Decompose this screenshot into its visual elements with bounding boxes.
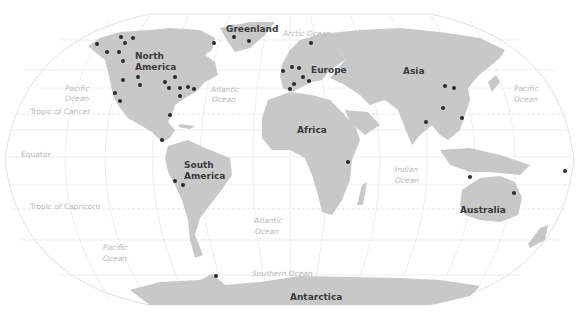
continent-label-north-america: America xyxy=(135,62,176,72)
ocean-label: Ocean xyxy=(65,94,89,103)
ocean-label: Atlantic xyxy=(253,216,284,225)
ocean-label: Indian xyxy=(395,165,418,174)
location-marker[interactable] xyxy=(512,191,516,195)
tropic-of-capricorn-label: Tropic of Capricorn xyxy=(29,202,100,211)
location-marker[interactable] xyxy=(105,50,109,54)
ocean-label: Ocean xyxy=(103,254,127,263)
location-marker[interactable] xyxy=(468,175,472,179)
location-marker[interactable] xyxy=(212,41,216,45)
location-marker[interactable] xyxy=(307,79,311,83)
location-marker[interactable] xyxy=(113,91,117,95)
location-marker[interactable] xyxy=(297,66,301,70)
continent-label-greenland: Greenland xyxy=(226,24,278,34)
location-marker[interactable] xyxy=(173,75,177,79)
location-marker[interactable] xyxy=(178,94,182,98)
location-marker[interactable] xyxy=(168,113,172,117)
location-marker[interactable] xyxy=(288,87,292,91)
location-marker[interactable] xyxy=(441,106,445,110)
ocean-label: Atlantic xyxy=(210,85,241,94)
ocean-label: Pacific xyxy=(65,84,90,93)
ocean-label: Southern Ocean xyxy=(252,269,313,278)
location-marker[interactable] xyxy=(301,75,305,79)
location-marker[interactable] xyxy=(452,86,456,90)
location-marker[interactable] xyxy=(131,36,135,40)
ocean-label: Ocean xyxy=(514,95,538,104)
location-marker[interactable] xyxy=(346,160,350,164)
location-marker[interactable] xyxy=(232,35,236,39)
location-marker[interactable] xyxy=(563,169,567,173)
ocean-label: Arctic Ocean xyxy=(282,29,331,38)
continent-label-europe: Europe xyxy=(311,65,347,75)
tropic-of-cancer-label: Tropic of Cancer xyxy=(29,107,91,116)
location-marker[interactable] xyxy=(95,42,99,46)
location-marker[interactable] xyxy=(121,78,125,82)
location-marker[interactable] xyxy=(173,179,177,183)
location-marker[interactable] xyxy=(181,183,185,187)
continent-label-south-america: America xyxy=(184,171,225,181)
continent-label-north-america: North xyxy=(135,51,164,61)
location-marker[interactable] xyxy=(290,65,294,69)
location-marker[interactable] xyxy=(214,274,218,278)
location-marker[interactable] xyxy=(160,138,164,142)
location-marker[interactable] xyxy=(163,80,167,84)
world-map[interactable]: Tropic of Cancer Equator Tropic of Capri… xyxy=(0,0,579,317)
ocean-label: Pacific xyxy=(103,243,128,252)
continent-label-asia: Asia xyxy=(403,66,424,76)
location-marker[interactable] xyxy=(136,75,140,79)
location-marker[interactable] xyxy=(309,41,313,45)
location-marker[interactable] xyxy=(118,99,122,103)
location-marker[interactable] xyxy=(117,50,121,54)
ocean-label: Ocean xyxy=(395,176,419,185)
ocean-label: Ocean xyxy=(255,227,279,236)
continent-label-australia: Australia xyxy=(460,205,506,215)
location-marker[interactable] xyxy=(138,83,142,87)
continent-label-africa: Africa xyxy=(297,125,327,135)
location-marker[interactable] xyxy=(443,84,447,88)
location-marker[interactable] xyxy=(186,85,190,89)
location-marker[interactable] xyxy=(281,69,285,73)
location-marker[interactable] xyxy=(121,59,125,63)
continent-label-south-america: South xyxy=(184,160,214,170)
ocean-label: Ocean xyxy=(212,95,236,104)
location-marker[interactable] xyxy=(119,35,123,39)
continent-label-antarctica: Antarctica xyxy=(290,292,342,302)
location-marker[interactable] xyxy=(292,82,296,86)
location-marker[interactable] xyxy=(424,120,428,124)
location-marker[interactable] xyxy=(192,87,196,91)
location-marker[interactable] xyxy=(460,116,464,120)
location-marker[interactable] xyxy=(123,41,127,45)
location-marker[interactable] xyxy=(178,86,182,90)
location-marker[interactable] xyxy=(167,86,171,90)
ocean-label: Pacific xyxy=(514,84,539,93)
location-marker[interactable] xyxy=(247,39,251,43)
equator-label: Equator xyxy=(21,150,51,159)
